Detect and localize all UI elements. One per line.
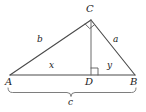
segment-label-y: y	[107, 61, 112, 70]
figure-svg	[0, 0, 146, 112]
vertex-label-B: B	[130, 77, 137, 87]
vertex-label-A: A	[5, 77, 12, 87]
right-angle-marker-C	[85, 24, 94, 29]
brace-label-c: c	[68, 98, 73, 107]
geometry-figure: A B C D b a x y c	[0, 0, 146, 112]
segment-CB	[91, 20, 135, 75]
brace-AB	[8, 88, 136, 97]
vertex-label-D: D	[85, 77, 93, 87]
segment-label-a: a	[113, 35, 118, 44]
vertex-label-C: C	[86, 4, 94, 14]
right-angle-marker-D	[91, 68, 98, 75]
segment-label-x: x	[49, 61, 54, 70]
segment-label-b: b	[37, 35, 43, 44]
